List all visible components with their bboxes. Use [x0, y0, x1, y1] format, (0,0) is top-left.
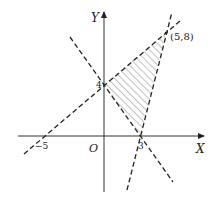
- point-label-5-8: (5,8): [170, 31, 194, 42]
- tick-label-x-neg5: −5: [35, 141, 49, 151]
- y-axis-label: Y: [91, 11, 100, 25]
- diagram-canvas: Y X O −5 3 4 (5,8): [0, 0, 214, 201]
- shaded-feasible-region: [104, 33, 166, 136]
- tick-label-y-4: 4: [96, 80, 102, 90]
- vertex-point-5-8: [165, 32, 168, 35]
- tick-label-x-3: 3: [138, 141, 144, 151]
- origin-label: O: [89, 142, 98, 155]
- coordinate-diagram: Y X O −5 3 4 (5,8): [0, 0, 214, 201]
- dashed-line-1: [24, 21, 180, 154]
- x-axis-label: X: [195, 142, 205, 156]
